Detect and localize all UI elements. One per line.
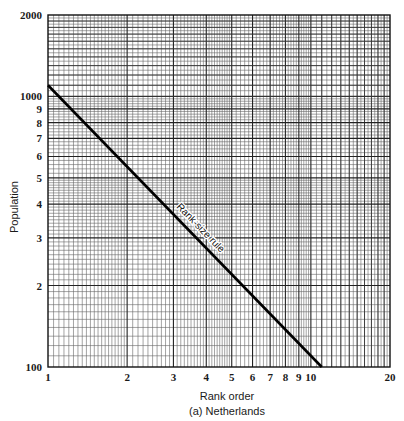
x-tick-label: 4 [204, 371, 210, 383]
x-tick-label: 5 [229, 371, 235, 383]
y-tick-label: 7 [37, 132, 43, 144]
x-tick-label: 9 [296, 371, 302, 383]
rank-size-rule-label: Rank-size rule [175, 201, 228, 255]
y-tick-label: 6 [37, 150, 43, 162]
x-tick-label: 20 [385, 371, 397, 383]
y-tick-label: 1000 [20, 90, 43, 102]
x-tick-label: 7 [267, 371, 273, 383]
y-tick-label: 4 [37, 198, 43, 210]
x-tick-label: 10 [305, 371, 317, 383]
y-tick-label: 5 [37, 172, 43, 184]
y-tick-label: 100 [26, 361, 43, 373]
grid-minor-lines [48, 15, 390, 367]
y-tick-label: 2 [37, 280, 43, 292]
series-line-rank-size-rule [48, 85, 322, 367]
x-tick-label: 2 [124, 371, 130, 383]
rank-size-chart: 1234567891020 1002345678910002000 Rank o… [0, 0, 404, 421]
y-tick-label: 9 [37, 103, 43, 115]
y-tick-label: 3 [37, 232, 43, 244]
y-tick-labels: 1002345678910002000 [20, 9, 43, 373]
series-layer [48, 85, 322, 367]
plot-frame [48, 15, 390, 367]
y-axis-title: Population [8, 181, 20, 233]
x-tick-label: 1 [45, 371, 51, 383]
y-tick-label: 2000 [20, 9, 43, 21]
x-tick-label: 6 [250, 371, 256, 383]
grid-major-lines [48, 15, 390, 367]
y-tick-label: 8 [37, 117, 43, 129]
x-tick-label: 3 [171, 371, 177, 383]
chart-caption: (a) Netherlands [189, 405, 265, 417]
x-tick-labels: 1234567891020 [45, 371, 396, 383]
x-tick-label: 8 [283, 371, 289, 383]
x-axis-title: Rank order [200, 390, 255, 402]
